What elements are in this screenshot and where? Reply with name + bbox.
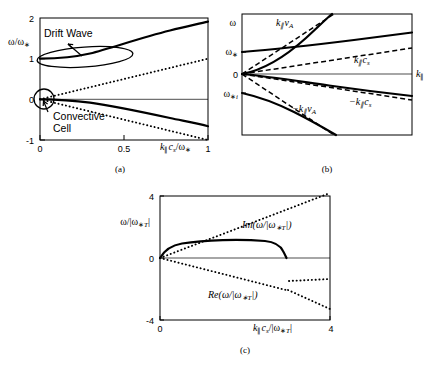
panel-c-ytick-0: 0 <box>149 254 154 264</box>
panel-c-curve-label-re: Re(ω/|ω∗T|) <box>207 289 258 302</box>
panel-b-asymptote-kcs-plus <box>242 48 412 74</box>
panel-c-x-axis-label: k∥cs/|ω∗T| <box>253 322 292 335</box>
panel-a-x-ticks <box>40 135 208 140</box>
panel-a-ytick-1: 1 <box>29 54 34 64</box>
panel-c-curve-re-upper-split <box>289 279 330 281</box>
panel-b-caption: (b) <box>322 164 333 174</box>
panel-c-curve-re-lower-split <box>288 290 330 309</box>
panel-a-ytick-minus1: -1 <box>26 136 34 146</box>
panel-a-xtick-1: 1 <box>205 144 210 154</box>
panel-b-curve-label-kva-plus: k∥vA <box>276 17 294 30</box>
panel-b-y-axis-label: ω <box>229 17 236 28</box>
panel-b-ytick-omega-star: ω∗ <box>225 46 238 59</box>
panel-c-x-ticks <box>160 316 330 320</box>
panel-a-caption: (a) <box>115 164 125 174</box>
panel-a-xtick-05: 0.5 <box>118 144 131 154</box>
panel-c-ytick-4: 4 <box>149 192 154 202</box>
panel-b-curve-lower-branch <box>242 74 412 96</box>
panel-b-curve-label-kcs-plus: k∥cs <box>354 54 370 67</box>
panel-a-ytick-2: 2 <box>29 14 34 24</box>
panel-a: 2 1 0 -1 0 0.5 1 ω/ω∗ k∥cs/ω∗ Drift Wave… <box>0 0 214 183</box>
panel-c-ytick-minus4: -4 <box>146 316 154 326</box>
panel-b-curve-label-kcs-minus: −k∥cs <box>349 96 372 109</box>
panel-b-plot-frame <box>242 14 412 135</box>
panel-a-drift-wave-ellipse <box>36 44 133 71</box>
panel-c-xtick-4: 4 <box>328 324 333 334</box>
panel-b-ytick-omega-star-i: ω∗i <box>223 88 238 101</box>
panel-a-y-axis-label: ω/ω∗ <box>8 36 30 49</box>
panel-b: ω∗ 0 ω∗i ω k∥ k∥vA k∥cs −k∥vA −k∥cs (b) <box>214 0 428 183</box>
panel-b-curve-drift-branch <box>242 33 412 53</box>
panel-b-curve-omega-star-i <box>242 93 336 135</box>
panel-c-curve-im <box>160 240 287 258</box>
panel-a-x-axis-label: k∥cs/ω∗ <box>160 141 191 154</box>
panel-c: 4 0 -4 0 4 ω/|ω∗T| k∥cs/|ω∗T| Im(ω/|ω∗T|… <box>90 183 350 366</box>
panel-c-y-axis-label: ω/|ω∗T| <box>120 216 150 229</box>
panel-a-ytick-0: 0 <box>29 95 34 105</box>
panel-c-xtick-0: 0 <box>157 324 162 334</box>
panel-a-annotation-drift-wave: Drift Wave <box>44 27 93 39</box>
panel-c-caption: (c) <box>240 345 250 355</box>
panel-c-curve-label-im: Im(ω/|ω∗T|) <box>241 219 292 232</box>
panel-a-curve-acoustic-plus <box>40 59 208 100</box>
figure-dispersion-relations: 2 1 0 -1 0 0.5 1 ω/ω∗ k∥cs/ω∗ Drift Wave… <box>0 0 428 366</box>
panel-b-ytick-0: 0 <box>233 70 238 80</box>
panel-c-curve-re <box>160 258 286 290</box>
panel-a-xtick-0: 0 <box>37 144 42 154</box>
panel-a-annotation-convective-cell-line2: Cell <box>53 122 71 134</box>
panel-b-x-axis-label: k∥ <box>416 68 424 81</box>
panel-a-annotation-convective-cell: Convective <box>53 110 105 122</box>
